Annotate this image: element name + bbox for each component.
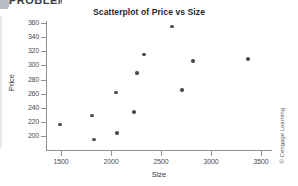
x-axis-tick <box>261 151 262 156</box>
y-axis-tick <box>41 122 46 123</box>
y-axis-tick <box>41 23 46 24</box>
data-point <box>191 59 194 62</box>
x-axis-tick <box>211 151 212 156</box>
x-axis-line <box>46 150 272 151</box>
y-axis-tick-label: 200 <box>17 132 39 139</box>
x-axis-title: Size <box>46 170 272 179</box>
y-axis-tick <box>41 80 46 81</box>
y-axis-tick-label: 240 <box>17 104 39 111</box>
data-point <box>170 25 173 28</box>
x-axis-tick-label: 3000 <box>194 158 228 165</box>
scatterplot-figure: Scatterplot of Price vs Size 20022024026… <box>0 0 298 186</box>
y-axis-tick <box>41 136 46 137</box>
y-axis-tick-label: 320 <box>17 47 39 54</box>
x-axis-tick <box>161 151 162 156</box>
y-axis-tick-label: 340 <box>17 33 39 40</box>
y-axis-tick <box>41 65 46 66</box>
data-point <box>180 88 183 91</box>
data-point <box>115 131 118 134</box>
y-axis-tick-label: 280 <box>17 76 39 83</box>
data-point <box>135 71 138 74</box>
data-point <box>90 114 93 117</box>
data-point <box>114 91 117 94</box>
x-axis-tick-label: 2500 <box>144 158 178 165</box>
y-axis-tick <box>41 37 46 38</box>
y-axis-tick-label: 220 <box>17 118 39 125</box>
data-point <box>92 138 95 141</box>
y-axis-tick-label: 300 <box>17 61 39 68</box>
plot-area: 2002202402602803003203403601500200025003… <box>0 0 298 186</box>
y-axis-tick <box>41 94 46 95</box>
data-point <box>58 123 61 126</box>
data-point <box>132 110 135 113</box>
y-axis-line <box>46 21 47 151</box>
x-axis-tick <box>61 151 62 156</box>
x-axis-tick <box>111 151 112 156</box>
y-axis-tick-label: 260 <box>17 90 39 97</box>
y-axis-tick <box>41 108 46 109</box>
y-axis-title: Price <box>7 66 16 100</box>
x-axis-tick-label: 1500 <box>44 158 78 165</box>
x-axis-tick-label: 2000 <box>94 158 128 165</box>
x-axis-tick-label: 3500 <box>244 158 278 165</box>
data-point <box>246 57 249 60</box>
y-axis-tick-label: 360 <box>17 19 39 26</box>
copyright-credit: © Cengage Learning <box>279 108 285 163</box>
y-axis-tick <box>41 51 46 52</box>
data-point <box>142 53 145 56</box>
